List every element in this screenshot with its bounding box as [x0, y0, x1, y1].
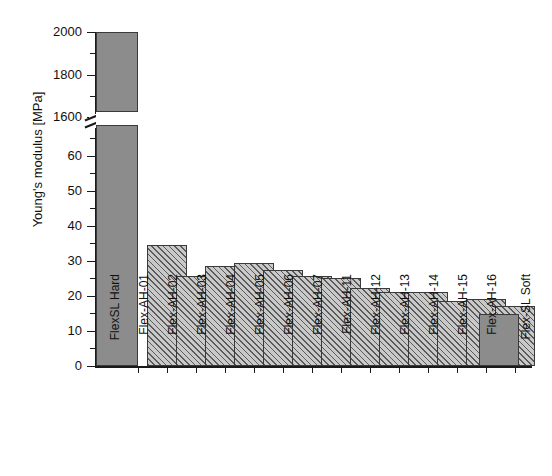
x-label-flex-ah-02: Flex-AH-02 — [166, 274, 180, 374]
y-tick-2000 — [87, 32, 96, 33]
bar-chart: Young's modulus [MPa] 2000 1800 1600 60 … — [0, 0, 552, 476]
y-tick-label-50: 50 — [22, 184, 82, 197]
y-tick-1800 — [87, 75, 96, 76]
y-tick-0 — [87, 366, 96, 367]
y-tick-label-30: 30 — [22, 254, 82, 267]
x-label-flex-ah-15: Flex-AH-15 — [456, 274, 470, 374]
x-label-flex-ah-16: Flex-AH-16 — [485, 274, 499, 374]
x-label-flex-ah-03: Flex-AH-03 — [195, 274, 209, 374]
x-label-flex-ah-13: Flex-AH-13 — [398, 274, 412, 374]
y-tick-label-60: 60 — [22, 149, 82, 162]
axis-break-bar-edge-top — [96, 111, 138, 112]
y-tick-20 — [87, 296, 96, 297]
axis-break-bar-edge-bottom — [96, 125, 138, 126]
x-label-flex-ah-01: Flex-AH-01 — [137, 274, 151, 374]
y-tick-30 — [87, 261, 96, 262]
x-label-flex-sl-soft: Flex-SL Soft — [519, 274, 533, 374]
y-tick-label-1800: 1800 — [22, 68, 82, 81]
x-label-flex-ah-06: Flex-AH-06 — [282, 274, 296, 374]
y-tick-label-2000: 2000 — [22, 25, 82, 38]
x-label-flex-ah-07: Flex-AH-07 — [311, 274, 325, 374]
x-label-flex-ah-12: Flex-AH-12 — [369, 274, 383, 374]
x-label-flexsl-hard: FlexSL Hard — [108, 274, 122, 374]
y-tick-label-20: 20 — [22, 289, 82, 302]
y-tick-40 — [87, 226, 96, 227]
y-tick-label-1600: 1600 — [22, 110, 82, 123]
y-tick-label-40: 40 — [22, 219, 82, 232]
axis-break-bar-gap — [96, 112, 138, 125]
y-tick-label-0: 0 — [22, 359, 82, 372]
y-tick-50 — [87, 191, 96, 192]
x-label-flex-ah-14: Flex-AH-14 — [427, 274, 441, 374]
x-tick-14 — [515, 366, 516, 373]
y-tick-10 — [87, 331, 96, 332]
x-label-flex-ah-04: Flex-AH-04 — [224, 274, 238, 374]
y-tick-60 — [87, 156, 96, 157]
x-label-flex-ah-11: Flex-AH-11 — [340, 274, 354, 374]
x-label-flex-ah-05: Flex-AH-05 — [253, 274, 267, 374]
y-tick-label-10: 10 — [22, 324, 82, 337]
